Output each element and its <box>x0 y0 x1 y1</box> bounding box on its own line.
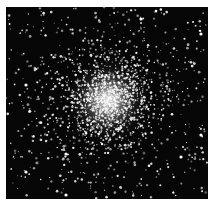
star-cluster-photo <box>6 7 208 199</box>
star-field <box>6 7 208 199</box>
